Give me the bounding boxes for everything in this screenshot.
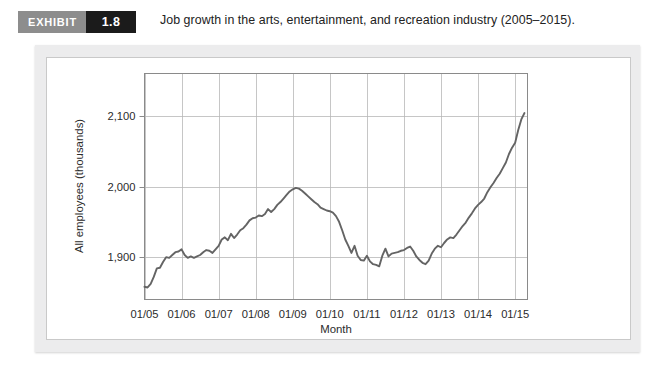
line-chart: 1,9002,0002,100 01/0501/0601/0701/0801/0… [47,58,630,339]
exhibit-badge-number: 1.8 [86,11,136,33]
x-tick-label: 01/05 [131,308,159,320]
exhibit-badge: EXHIBIT 1.8 [18,11,136,33]
plot-frame [145,74,528,300]
y-axis-tick-labels: 1,9002,0002,100 [108,110,145,263]
chart-svg: 1,9002,0002,100 01/0501/0601/0701/0801/0… [47,58,630,339]
figure-panel: 1,9002,0002,100 01/0501/0601/0701/0801/0… [35,45,640,352]
x-tick-label: 01/13 [427,308,455,320]
exhibit-badge-word: EXHIBIT [18,11,86,33]
x-axis-title: Month [320,323,352,335]
x-tick-label: 01/09 [279,308,307,320]
x-tick-label: 01/14 [464,308,492,320]
x-tick-label: 01/15 [501,308,529,320]
y-tick-label: 2,100 [108,110,136,122]
y-tick-label: 1,900 [108,251,136,263]
y-tick-label: 2,000 [108,181,136,193]
series-line-all-employees [145,113,525,287]
x-tick-label: 01/07 [205,308,233,320]
vertical-gridlines [146,74,516,300]
x-tick-label: 01/06 [168,308,196,320]
exhibit-header: EXHIBIT 1.8 Job growth in the arts, ente… [0,0,659,42]
exhibit-title: Job growth in the arts, entertainment, a… [160,13,575,27]
figure-card: 1,9002,0002,100 01/0501/0601/0701/0801/0… [46,57,631,340]
x-tick-label: 01/10 [316,308,344,320]
horizontal-gridlines [145,117,528,258]
y-axis-title: All employees (thousands) [73,119,85,253]
x-tick-label: 01/08 [242,308,270,320]
x-axis-tick-labels: 01/0501/0601/0701/0801/0901/1001/1101/12… [131,308,530,320]
x-tick-label: 01/11 [353,308,380,320]
x-tick-label: 01/12 [390,308,418,320]
